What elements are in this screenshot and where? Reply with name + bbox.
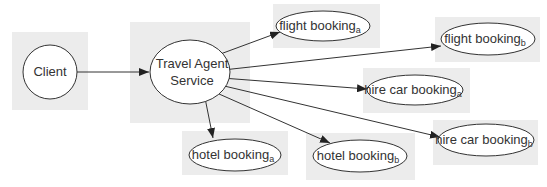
- node-flight-booking-a[interactable]: flight bookinga: [276, 11, 370, 41]
- svg-text:flight bookingb: flight bookingb: [444, 31, 526, 48]
- flight-a-label: flight booking: [279, 18, 356, 33]
- diagram-svg: Client Travel Agent Service flight booki…: [0, 0, 547, 187]
- hire-car-a-label: hire car booking: [364, 82, 457, 97]
- svg-text:hotel bookinga: hotel bookinga: [192, 147, 274, 164]
- node-travel-agent[interactable]: Travel Agent Service: [150, 40, 230, 104]
- node-flight-booking-b[interactable]: flight bookingb: [441, 23, 535, 55]
- node-hotel-booking-a[interactable]: hotel bookinga: [189, 139, 281, 171]
- hotel-b-label: hotel booking: [317, 148, 394, 163]
- client-label: Client: [33, 64, 67, 79]
- diagram-canvas: Client Travel Agent Service flight booki…: [0, 0, 547, 187]
- flight-b-label: flight booking: [444, 31, 521, 46]
- hotel-a-label: hotel booking: [192, 147, 269, 162]
- travel-agent-label-line1: Travel Agent: [156, 56, 229, 71]
- svg-text:flight bookinga: flight bookinga: [279, 18, 361, 35]
- svg-text:hotel bookingb: hotel bookingb: [317, 148, 399, 165]
- edge-travel-agent-flight-b: [223, 46, 441, 70]
- travel-agent-label-line2: Service: [170, 73, 213, 88]
- hotel-a-subscript: a: [269, 154, 274, 164]
- node-hotel-booking-b[interactable]: hotel bookingb: [313, 140, 407, 172]
- svg-text:hire car bookinga: hire car bookinga: [364, 82, 462, 99]
- hire-car-b-subscript: b: [528, 139, 533, 149]
- svg-text:hire car bookingb: hire car bookingb: [435, 132, 533, 149]
- hire-car-a-subscript: a: [457, 89, 462, 99]
- node-client[interactable]: Client: [23, 45, 77, 99]
- hotel-b-subscript: b: [394, 155, 399, 165]
- hire-car-b-label: hire car booking: [435, 132, 528, 147]
- flight-a-subscript: a: [356, 25, 361, 35]
- flight-b-subscript: b: [521, 38, 526, 48]
